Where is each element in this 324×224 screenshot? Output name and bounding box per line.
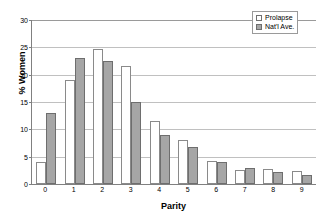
bar-natl[interactable]: [302, 175, 312, 184]
bar-group: [146, 20, 174, 184]
bar-natl[interactable]: [273, 172, 283, 184]
bar-natl[interactable]: [160, 135, 170, 184]
bar-natl[interactable]: [245, 168, 255, 184]
bar-group: [89, 20, 117, 184]
bar-natl[interactable]: [75, 58, 85, 184]
bar-prolapse[interactable]: [36, 162, 46, 184]
y-axis-tick-label: 20: [20, 71, 28, 78]
bar-prolapse[interactable]: [93, 49, 103, 184]
x-axis-tick-label: 1: [60, 186, 89, 193]
y-axis-tick-label: 0: [24, 181, 28, 188]
bar-prolapse[interactable]: [65, 80, 75, 184]
bar-series-container: [32, 20, 316, 184]
y-axis-tick-mark: [29, 184, 32, 185]
bar-prolapse[interactable]: [178, 140, 188, 184]
bar-prolapse[interactable]: [150, 121, 160, 184]
bar-prolapse[interactable]: [235, 170, 245, 184]
bar-group: [32, 20, 60, 184]
bar-natl[interactable]: [131, 102, 141, 184]
plot-area: 051015202530: [31, 20, 316, 185]
y-axis-tick-label: 30: [20, 17, 28, 24]
bar-natl[interactable]: [103, 61, 113, 184]
bar-group: [174, 20, 202, 184]
y-axis-tick-label: 25: [20, 44, 28, 51]
x-axis-title: Parity: [31, 201, 316, 211]
bar-prolapse[interactable]: [207, 161, 217, 184]
legend-item-prolapse: Prolapse: [256, 14, 294, 22]
x-axis-tick-label: 5: [174, 186, 203, 193]
y-axis-tick-label: 15: [20, 99, 28, 106]
bar-group: [117, 20, 145, 184]
bar-natl[interactable]: [188, 147, 198, 184]
bar-prolapse[interactable]: [292, 171, 302, 184]
legend-swatch-icon-prolapse: [256, 15, 262, 21]
legend-label-natl-ave: Nat'l Ave.: [265, 23, 294, 31]
chart-legend: Prolapse Nat'l Ave.: [252, 11, 298, 34]
bar-group: [231, 20, 259, 184]
bar-prolapse[interactable]: [121, 66, 131, 184]
y-axis-tick-label: 5: [24, 153, 28, 160]
x-axis-tick-label: 0: [31, 186, 60, 193]
x-axis-tick-label: 9: [288, 186, 317, 193]
y-axis-tick-label: 10: [20, 126, 28, 133]
x-axis-tick-label: 3: [117, 186, 146, 193]
bar-prolapse[interactable]: [263, 169, 273, 184]
bar-group: [288, 20, 316, 184]
bar-natl[interactable]: [217, 162, 227, 184]
x-axis-tick-label: 8: [259, 186, 288, 193]
bar-group: [202, 20, 230, 184]
x-axis-tick-label: 6: [202, 186, 231, 193]
x-axis-tick-label: 4: [145, 186, 174, 193]
bar-chart: % Women 051015202530 0123456789 Parity P…: [0, 0, 324, 224]
x-axis-tick-labels: 0123456789: [31, 186, 316, 193]
x-axis-tick-label: 2: [88, 186, 117, 193]
legend-swatch-icon-natl-ave: [256, 24, 262, 30]
bar-group: [259, 20, 287, 184]
legend-label-prolapse: Prolapse: [265, 14, 293, 22]
bar-group: [60, 20, 88, 184]
legend-item-natl-ave: Nat'l Ave.: [256, 23, 294, 31]
bar-natl[interactable]: [46, 113, 56, 184]
x-axis-tick-label: 7: [231, 186, 260, 193]
